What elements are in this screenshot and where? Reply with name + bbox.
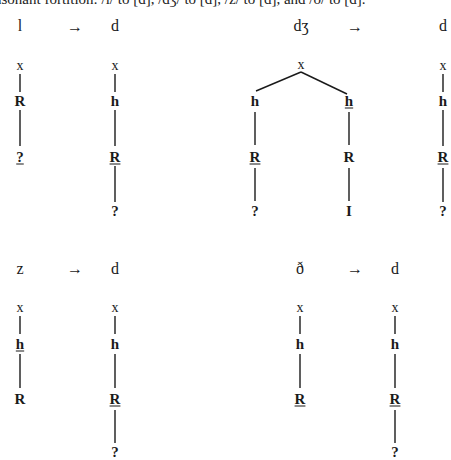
target-segment: d [439, 18, 447, 34]
h-node-head-right: h [345, 94, 353, 109]
r-node: R [15, 392, 26, 407]
r-node: R [15, 94, 26, 109]
x-node: x [298, 58, 305, 72]
tree-branches [0, 0, 451, 460]
h-node-left: h [251, 94, 259, 109]
h-node: h [439, 94, 447, 109]
h-node-head: h [16, 337, 24, 352]
glottal-node-head: ? [16, 150, 24, 165]
source-segment: dʒ [293, 18, 308, 34]
i-node-right: I [346, 204, 352, 219]
glottal-node: ? [111, 204, 119, 219]
x-node: x [112, 59, 119, 73]
r-node-head: R [438, 150, 449, 165]
arrow-icon: → [67, 19, 83, 35]
x-node: x [297, 301, 304, 315]
target-segment: d [111, 18, 119, 34]
h-node: h [391, 337, 399, 352]
x-node: x [17, 59, 24, 73]
glottal-node: ? [439, 204, 447, 219]
r-node-right: R [344, 150, 355, 165]
glottal-node: ? [111, 445, 119, 460]
x-node: x [440, 59, 447, 73]
arrow-icon: → [347, 19, 363, 35]
x-node: x [112, 301, 119, 315]
r-node-head-left: R [250, 150, 261, 165]
glottal-node: ? [391, 445, 399, 460]
h-node: h [296, 337, 304, 352]
r-node-head: R [390, 392, 401, 407]
h-node: h [111, 337, 119, 352]
target-segment: d [391, 261, 399, 277]
source-segment: ð [296, 261, 304, 277]
target-segment: d [111, 261, 119, 277]
glottal-node-left: ? [251, 204, 259, 219]
r-node-head: R [295, 392, 306, 407]
source-segment: z [16, 261, 23, 277]
source-segment: l [18, 18, 22, 34]
r-node-head: R [110, 150, 121, 165]
arrow-icon: → [347, 261, 363, 277]
h-node: h [111, 94, 119, 109]
x-node: x [392, 301, 399, 315]
arrow-icon: → [67, 261, 83, 277]
r-node-head: R [110, 392, 121, 407]
x-node: x [17, 301, 24, 315]
